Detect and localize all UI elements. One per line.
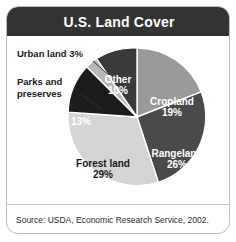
- figure-source-bar: Source: USDA, Economic Research Service,…: [7, 204, 230, 234]
- callout-parks-line-1: Parks and: [17, 76, 62, 88]
- page-title: U.S. Land Cover: [63, 14, 174, 30]
- source-note: Source: USDA, Economic Research Service,…: [7, 215, 209, 225]
- pie-chart: [65, 45, 209, 189]
- callout-parks-and-preserves: Parks and preserves: [17, 76, 62, 100]
- figure-title-bar: U.S. Land Cover: [7, 7, 230, 36]
- callout-urban-land: Urban land 3%: [17, 48, 83, 60]
- pie-chart-plot-area: Urban land 3% Parks and preserves Other …: [7, 36, 230, 204]
- land-cover-figure-card: U.S. Land Cover: [6, 6, 230, 234]
- callout-urban-land-text: Urban land 3%: [17, 48, 83, 59]
- callout-parks-line-2: preserves: [17, 88, 62, 100]
- pie-svg: [65, 45, 209, 189]
